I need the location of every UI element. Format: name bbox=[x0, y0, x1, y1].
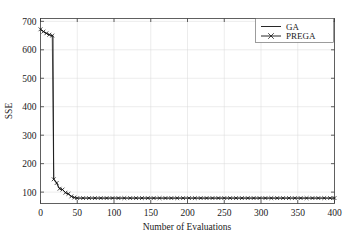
xtick-label: 50 bbox=[73, 208, 83, 218]
ytick-label: 700 bbox=[22, 17, 37, 27]
line-chart: 050100150200250300350400 100200300400500… bbox=[0, 0, 351, 242]
xtick-label: 200 bbox=[180, 208, 195, 218]
ytick-label: 500 bbox=[22, 74, 37, 84]
ytick-label: 400 bbox=[22, 102, 37, 112]
ytick-label: 100 bbox=[22, 188, 37, 198]
legend-label-prega: PREGA bbox=[286, 31, 316, 41]
ytick-label: 600 bbox=[22, 45, 37, 55]
ytick-label: 300 bbox=[22, 131, 37, 141]
legend-label-ga: GA bbox=[286, 22, 299, 32]
xtick-label: 400 bbox=[327, 208, 342, 218]
figure-container: 050100150200250300350400 100200300400500… bbox=[0, 0, 351, 242]
gridlines-group bbox=[41, 19, 335, 204]
xtick-label: 100 bbox=[107, 208, 122, 218]
x-axis-title: Number of Evaluations bbox=[143, 222, 232, 232]
ytick-labels-group: 100200300400500600700 bbox=[22, 17, 37, 198]
y-axis-title: SSE bbox=[4, 103, 14, 120]
ytick-label: 200 bbox=[22, 159, 37, 169]
xtick-label: 350 bbox=[291, 208, 306, 218]
xtick-label: 250 bbox=[217, 208, 232, 218]
xtick-labels-group: 050100150200250300350400 bbox=[38, 208, 342, 218]
xtick-label: 300 bbox=[254, 208, 269, 218]
xtick-label: 0 bbox=[38, 208, 43, 218]
xtick-label: 150 bbox=[144, 208, 159, 218]
legend[interactable]: GA PREGA bbox=[256, 19, 334, 43]
